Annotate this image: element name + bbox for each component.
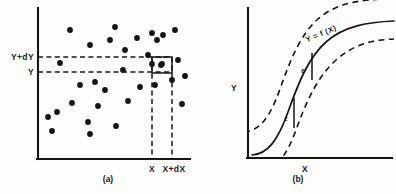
panel-a-data-point bbox=[152, 82, 158, 88]
panel-a-data-point bbox=[112, 24, 118, 30]
panel-b-curves bbox=[244, 0, 394, 172]
panel-a-y-label-upper: Y+dY bbox=[11, 52, 34, 62]
panel-a: Y+dY Y X X+dX (a) bbox=[11, 8, 190, 184]
figure-svg: Y+dY Y X X+dX (a) εε Y = f (X bbox=[0, 0, 396, 194]
panel-a-data-point bbox=[102, 87, 108, 93]
panel-a-data-point bbox=[120, 67, 126, 73]
panel-a-data-point bbox=[49, 128, 55, 134]
panel-a-data-point bbox=[95, 103, 101, 109]
panel-a-data-point bbox=[77, 82, 83, 88]
panel-a-data-point bbox=[45, 114, 51, 120]
panel-a-x-label-left: X bbox=[149, 164, 155, 174]
figure-container: Y+dY Y X X+dX (a) εε Y = f (X bbox=[0, 0, 396, 194]
panel-a-data-point bbox=[172, 27, 178, 33]
panel-a-data-point bbox=[67, 27, 73, 33]
panel-a-data-point bbox=[122, 47, 128, 53]
panel-b-caption: (b) bbox=[293, 174, 304, 184]
panel-a-data-point bbox=[113, 123, 119, 129]
panel-a-data-point bbox=[54, 109, 60, 115]
panel-a-data-point bbox=[57, 60, 63, 66]
panel-a-data-point bbox=[182, 73, 188, 79]
panel-a-data-point bbox=[179, 101, 185, 107]
panel-a-data-point bbox=[175, 57, 181, 63]
panel-b-x-axis-label: X bbox=[302, 164, 308, 174]
panel-b-curve-equation-label: Y = f (X) bbox=[304, 23, 337, 44]
panel-a-data-point bbox=[169, 77, 175, 83]
panel-b-epsilon-label-1: ε bbox=[284, 115, 288, 122]
panel-a-data-point bbox=[145, 52, 151, 58]
panel-a-data-point bbox=[87, 42, 93, 48]
panel-a-data-point bbox=[87, 131, 93, 137]
panel-a-scatter-points bbox=[45, 24, 188, 137]
panel-a-data-point bbox=[85, 119, 91, 125]
panel-a-data-point bbox=[159, 61, 165, 67]
panel-a-data-point bbox=[92, 79, 98, 85]
panel-a-data-point bbox=[134, 35, 140, 41]
panel-a-data-point bbox=[160, 32, 166, 38]
panel-b-lower-band-curve bbox=[258, 39, 394, 172]
panel-a-data-point bbox=[154, 37, 160, 43]
panel-a-x-label-right: X+dX bbox=[162, 164, 185, 174]
panel-b-y-axis-label: Y bbox=[231, 83, 237, 93]
panel-a-data-point bbox=[107, 37, 113, 43]
panel-b: εε Y = f (X) Y X (b) bbox=[231, 0, 394, 184]
panel-a-y-label-lower: Y bbox=[28, 67, 34, 77]
panel-a-data-point bbox=[69, 100, 75, 106]
panel-a-data-point bbox=[125, 98, 131, 104]
panel-a-data-point bbox=[149, 30, 155, 36]
panel-b-upper-band-curve bbox=[244, 0, 394, 132]
panel-a-data-point bbox=[137, 84, 143, 90]
panel-a-caption: (a) bbox=[103, 174, 114, 184]
